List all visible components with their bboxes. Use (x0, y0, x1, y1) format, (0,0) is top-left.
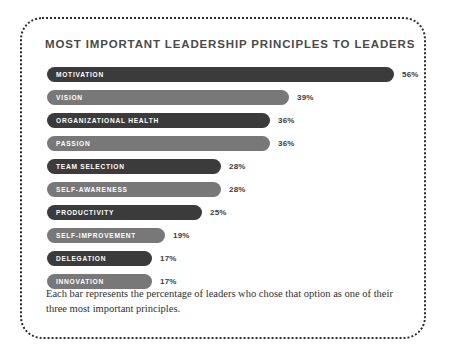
bar-category-label: TEAM SELECTION (56, 159, 125, 174)
bar-row[interactable]: SELF-IMPROVEMENT19% (47, 225, 407, 248)
bar-category-label: ORGANIZATIONAL HEALTH (56, 113, 159, 128)
bar-category-label: VISION (56, 90, 83, 105)
bar-value-label: 25% (210, 205, 227, 220)
bar-category-label: DELEGATION (56, 251, 106, 266)
bar-value-label: 28% (229, 182, 246, 197)
bar-chart: MOTIVATION56%VISION39%ORGANIZATIONAL HEA… (47, 64, 407, 294)
page-title: MOST IMPORTANT LEADERSHIP PRINCIPLES TO … (45, 38, 415, 50)
bar-value-label: 19% (173, 228, 190, 243)
bar-value-label: 39% (297, 90, 314, 105)
bar-row[interactable]: TEAM SELECTION28% (47, 156, 407, 179)
bar-value-label: 17% (160, 251, 177, 266)
bar-value-label: 56% (402, 67, 419, 82)
bar-category-label: PASSION (56, 136, 90, 151)
bar-row[interactable]: VISION39% (47, 87, 407, 110)
chart-caption: Each bar represents the percentage of le… (46, 286, 396, 316)
bar-value-label: 36% (278, 136, 295, 151)
bar-category-label: MOTIVATION (56, 67, 104, 82)
bar-category-label: SELF-IMPROVEMENT (56, 228, 136, 243)
bar-value-label: 28% (229, 159, 246, 174)
bar[interactable] (47, 90, 289, 105)
bar-value-label: 36% (278, 113, 295, 128)
bar-row[interactable]: PASSION36% (47, 133, 407, 156)
chart-figure-frame: MOST IMPORTANT LEADERSHIP PRINCIPLES TO … (20, 17, 426, 339)
bar-row[interactable]: MOTIVATION56% (47, 64, 407, 87)
bar-row[interactable]: ORGANIZATIONAL HEALTH36% (47, 110, 407, 133)
bar-row[interactable]: SELF-AWARENESS28% (47, 179, 407, 202)
bar-row[interactable]: DELEGATION17% (47, 248, 407, 271)
bar-row[interactable]: PRODUCTIVITY25% (47, 202, 407, 225)
bar-category-label: SELF-AWARENESS (56, 182, 128, 197)
bar-category-label: PRODUCTIVITY (56, 205, 114, 220)
